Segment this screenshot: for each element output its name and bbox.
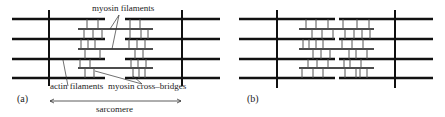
myosin-filaments-a — [78, 29, 153, 68]
sarcomere-arrow — [50, 99, 181, 103]
panel-label-a: (a) — [17, 94, 28, 104]
label-myosin-filaments: myosin filaments — [92, 4, 154, 13]
sarcomere-diagram — [0, 0, 445, 117]
label-actin-filaments: actin filaments — [50, 82, 103, 91]
label-cross-bridges: myosin cross–bridges — [108, 82, 186, 91]
panel-label-b: (b) — [247, 94, 259, 104]
label-sarcomere: sarcomere — [96, 105, 133, 114]
panel-b — [239, 10, 433, 88]
